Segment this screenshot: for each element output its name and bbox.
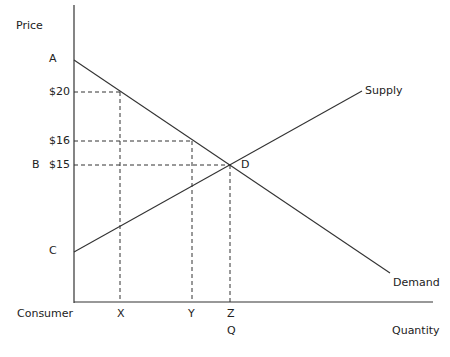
supply-label: Supply xyxy=(365,85,403,97)
qty-q-label: Q xyxy=(227,325,236,337)
price-15-label: $15 xyxy=(49,159,70,171)
demand-curve xyxy=(74,60,390,273)
qty-z-label: Z xyxy=(227,308,235,320)
price-16-label: $16 xyxy=(49,135,70,147)
price-20-label: $20 xyxy=(49,86,70,98)
consumer-label: Consumer xyxy=(17,308,73,320)
point-c-label: C xyxy=(49,245,57,257)
demand-label: Demand xyxy=(393,277,440,289)
point-b-label: B xyxy=(32,159,40,171)
y-axis-title: Price xyxy=(16,20,43,32)
qty-x-label: X xyxy=(117,308,125,320)
supply-demand-diagram xyxy=(0,0,450,357)
qty-y-label: Y xyxy=(188,308,195,320)
point-d-label: D xyxy=(241,159,249,171)
supply-curve xyxy=(74,91,362,252)
point-a-label: A xyxy=(49,53,57,65)
x-axis-title: Quantity xyxy=(392,325,440,337)
